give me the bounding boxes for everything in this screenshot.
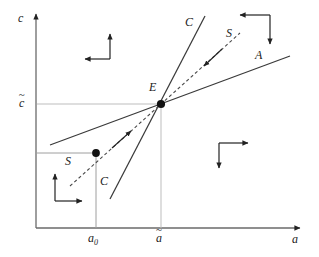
- guide-lines: [37, 104, 161, 228]
- curve-label-s-upper: S: [226, 27, 232, 39]
- saddle-arrow-upper: [204, 49, 222, 66]
- curve-label-c-top: C: [185, 16, 193, 28]
- direction-field-lower-right: [219, 143, 248, 168]
- tilde-accent: ~: [156, 224, 162, 235]
- direction-field-upper-left: [85, 34, 110, 59]
- x-tick-label-a-tilde: ~ a: [156, 232, 162, 244]
- direction-field-upper-right: [240, 15, 270, 44]
- x-tick-a0-sub: 0: [94, 238, 98, 247]
- point-label-e: E: [149, 81, 156, 93]
- phase-diagram-canvas: [0, 0, 319, 257]
- y-axis-label: c: [18, 12, 23, 24]
- x-axis-label: a: [292, 233, 298, 245]
- axis-group: [36, 14, 300, 228]
- phase-diagram-figure: c a ~ c a0 ~ a C C S S A E: [0, 0, 319, 257]
- y-tick-label-c-tilde: ~ c: [19, 97, 24, 109]
- point-equilibrium-e: [157, 100, 165, 108]
- direction-field-lower-left: [55, 174, 82, 201]
- x-tick-label-a0: a0: [88, 232, 98, 247]
- curve-label-s-lower: S: [65, 155, 71, 167]
- point-initial-a0: [92, 149, 100, 157]
- curve-label-a: A: [255, 49, 262, 61]
- saddle-arrow-lower: [112, 131, 131, 148]
- tilde-accent: ~: [19, 89, 25, 100]
- curve-label-c-bottom: C: [100, 175, 108, 187]
- curve-a-locus: [50, 56, 290, 145]
